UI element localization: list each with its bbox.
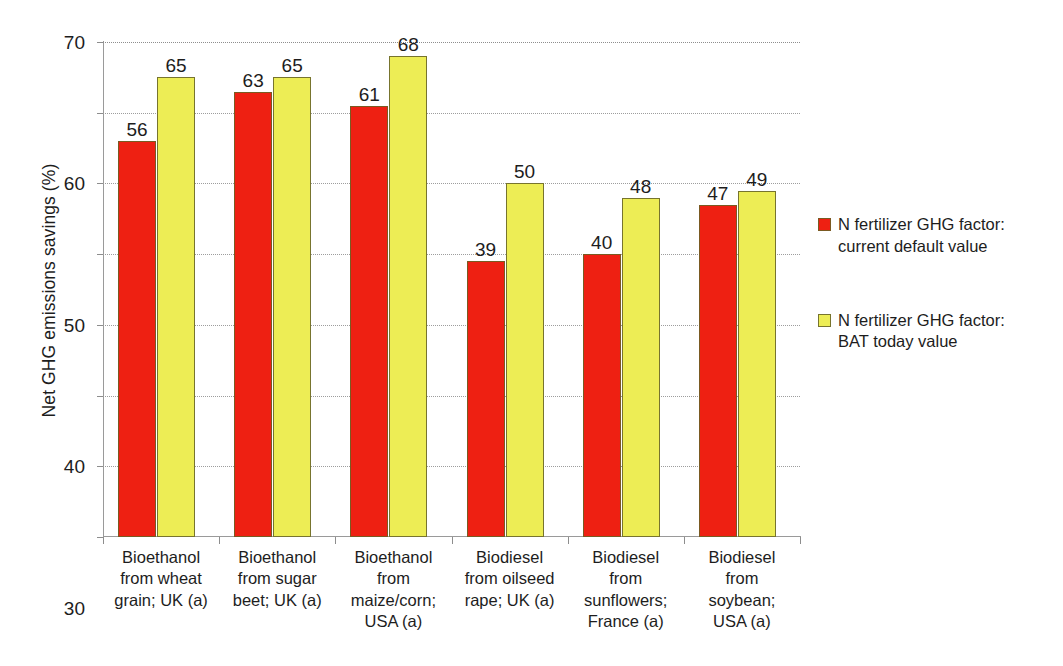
x-axis-label-0: Bioethanolfrom wheatgrain; UK (a) — [103, 547, 219, 611]
chart-legend: N fertilizer GHG factor:current default … — [818, 214, 1058, 405]
x-axis-label-line: from — [684, 568, 800, 589]
bar-bat-today-1: 65 — [273, 77, 311, 537]
y-tick-mark-60: 60 — [97, 113, 103, 114]
bar-current-default-2: 61 — [350, 106, 388, 537]
x-axis-label-line: sunflowers; — [568, 590, 684, 611]
legend-label: N fertilizer GHG factor:BAT today value — [838, 310, 1005, 354]
x-tick-mark-2 — [452, 537, 453, 544]
bar-bat-today-4: 48 — [622, 198, 660, 537]
gridline-40 — [103, 254, 800, 255]
x-axis-label-line: Bioethanol — [103, 547, 219, 568]
legend-swatch-icon — [818, 218, 831, 231]
bar-current-default-1: 63 — [234, 92, 272, 538]
x-axis-label-line: Biodiesel — [684, 547, 800, 568]
x-axis-label-line: USA (a) — [335, 611, 451, 632]
bar-value-label: 56 — [126, 120, 147, 139]
x-axis-label-line: beet; UK (a) — [219, 590, 335, 611]
bar-value-label: 39 — [475, 240, 496, 259]
bar-value-label: 48 — [630, 177, 651, 196]
y-tick-mark-70: 70 — [97, 42, 103, 43]
y-tick-mark-10: 10 — [97, 466, 103, 467]
gridline-60 — [103, 113, 800, 114]
x-axis-label-line: Biodiesel — [452, 547, 568, 568]
bar-value-label: 40 — [591, 233, 612, 252]
legend-label-line: BAT today value — [838, 331, 1005, 353]
y-tick-mark-50: 50 — [97, 183, 103, 184]
bar-bat-today-2: 68 — [389, 56, 427, 537]
bar-bat-today-3: 50 — [506, 183, 544, 537]
x-axis-label-line: USA (a) — [684, 611, 800, 632]
legend-entry-bat-today[interactable]: N fertilizer GHG factor:BAT today value — [818, 310, 1058, 354]
y-tick-label-60: 60 — [64, 173, 85, 195]
bar-value-label: 65 — [165, 56, 186, 75]
x-axis-label-line: grain; UK (a) — [103, 590, 219, 611]
x-axis-label-1: Bioethanolfrom sugarbeet; UK (a) — [219, 547, 335, 611]
x-axis-label-line: from oilseed — [452, 568, 568, 589]
y-axis-line — [103, 41, 104, 538]
x-axis-label-5: Biodieselfromsoybean;USA (a) — [684, 547, 800, 632]
y-tick-mark-20: 20 — [97, 396, 103, 397]
bar-value-label: 47 — [707, 184, 728, 203]
y-tick-label-40: 40 — [64, 456, 85, 478]
gridline-70 — [103, 42, 800, 43]
x-tick-mark-4 — [684, 537, 685, 544]
legend-swatch-icon — [818, 314, 831, 327]
bar-value-label: 50 — [514, 162, 535, 181]
plot-area: 010203040506070 566563656168395040484749 — [103, 42, 800, 537]
x-tick-mark-5 — [800, 537, 801, 544]
bar-current-default-5: 47 — [699, 205, 737, 537]
bar-value-label: 61 — [359, 85, 380, 104]
bar-value-label: 63 — [243, 71, 264, 90]
y-tick-label-70: 70 — [64, 32, 85, 54]
legend-label-line: N fertilizer GHG factor: — [838, 310, 1005, 332]
x-tick-mark-1 — [335, 537, 336, 544]
x-axis-label-line: Biodiesel — [568, 547, 684, 568]
gridline-50 — [103, 183, 800, 184]
gridline-20 — [103, 396, 800, 397]
x-axis-label-line: France (a) — [568, 611, 684, 632]
bar-value-label: 68 — [398, 35, 419, 54]
bar-value-label: 49 — [746, 170, 767, 189]
x-axis-label-line: rape; UK (a) — [452, 590, 568, 611]
bar-bat-today-5: 49 — [738, 191, 776, 538]
y-tick-mark-30: 30 — [97, 325, 103, 326]
x-axis-label-line: soybean; — [684, 590, 800, 611]
ghg-savings-bar-chart: Net GHG emissions savings (%) 0102030405… — [0, 0, 1063, 666]
x-axis-label-line: from sugar — [219, 568, 335, 589]
x-axis-label-line: from — [568, 568, 684, 589]
x-axis-label-line: from — [335, 568, 451, 589]
gridline-10 — [103, 466, 800, 467]
legend-label-line: N fertilizer GHG factor: — [838, 214, 1005, 236]
y-tick-label-50: 50 — [64, 315, 85, 337]
legend-label: N fertilizer GHG factor:current default … — [838, 214, 1005, 258]
bar-current-default-3: 39 — [467, 261, 505, 537]
y-axis-title: Net GHG emissions savings (%) — [39, 81, 60, 501]
x-tick-mark-3 — [568, 537, 569, 544]
x-axis-label-line: maize/corn; — [335, 590, 451, 611]
x-axis-label-3: Biodieselfrom oilseedrape; UK (a) — [452, 547, 568, 611]
x-axis-label-line: Bioethanol — [219, 547, 335, 568]
x-tick-mark-0 — [219, 537, 220, 544]
legend-label-line: current default value — [838, 236, 1005, 258]
gridline-30 — [103, 325, 800, 326]
x-axis-label-line: from wheat — [103, 568, 219, 589]
y-tick-mark-40: 40 — [97, 254, 103, 255]
bar-current-default-0: 56 — [118, 141, 156, 537]
bar-bat-today-0: 65 — [157, 77, 195, 537]
x-axis-label-line: Bioethanol — [335, 547, 451, 568]
bar-value-label: 65 — [282, 56, 303, 75]
x-axis-label-2: Bioethanolfrommaize/corn;USA (a) — [335, 547, 451, 632]
y-tick-label-30: 30 — [64, 598, 85, 620]
legend-entry-current-default[interactable]: N fertilizer GHG factor:current default … — [818, 214, 1058, 258]
bar-current-default-4: 40 — [583, 254, 621, 537]
x-tick-mark-origin — [103, 537, 104, 544]
x-axis-label-4: Biodieselfromsunflowers;France (a) — [568, 547, 684, 632]
